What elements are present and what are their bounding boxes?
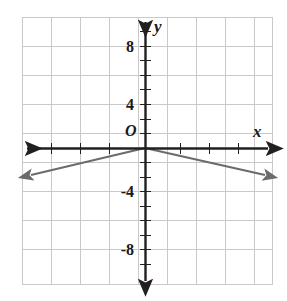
y-tick-label-4: 4: [108, 97, 134, 113]
origin-label: O: [125, 123, 137, 139]
x-axis: [27, 143, 268, 154]
y-tick-label-neg8: -8: [100, 242, 134, 258]
ray-right: [145, 148, 265, 175]
graph-canvas: [0, 0, 287, 301]
ray-left: [31, 148, 145, 175]
y-tick-label-neg4: -4: [100, 184, 134, 200]
x-axis-label: x: [253, 123, 262, 140]
y-axis: [140, 22, 151, 281]
coordinate-plane-figure: 8 4 -4 -8 O y x: [0, 0, 287, 301]
graphed-lines: [31, 148, 265, 175]
y-tick-label-8: 8: [108, 39, 134, 55]
y-axis-label: y: [154, 18, 162, 35]
grid-lines: [22, 17, 273, 285]
